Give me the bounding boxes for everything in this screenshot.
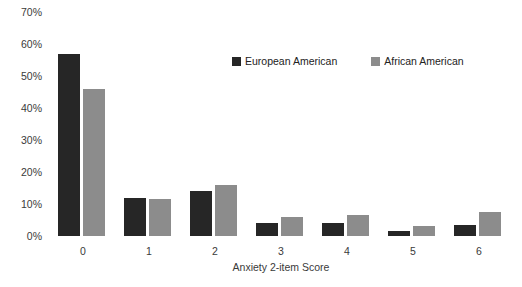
x-axis-tick-label: 5: [383, 246, 443, 257]
plot-area: [50, 12, 512, 236]
x-axis-tick-label: 2: [185, 246, 245, 257]
bar-african-american: [149, 199, 171, 236]
y-axis-tick-label: 60%: [0, 39, 42, 50]
bar-european-american: [190, 191, 212, 236]
bar-european-american: [256, 223, 278, 236]
legend-label: European American: [245, 56, 337, 67]
x-axis-tick-label: 3: [251, 246, 311, 257]
bar-african-american: [479, 212, 501, 236]
x-axis-tick-label: 0: [53, 246, 113, 257]
bar-group: [116, 12, 182, 236]
bar-chart: 0%10%20%30%40%50%60%70% European America…: [0, 0, 522, 287]
y-axis-tick-label: 40%: [0, 103, 42, 114]
legend-entry: African American: [371, 56, 463, 67]
y-axis-tick-label: 30%: [0, 135, 42, 146]
y-axis-tick-label: 10%: [0, 199, 42, 210]
x-axis-tick-label: 1: [119, 246, 179, 257]
bar-african-american: [413, 226, 435, 236]
bar-group: [248, 12, 314, 236]
bar-group: [380, 12, 446, 236]
legend-swatch-icon: [232, 57, 241, 66]
bar-european-american: [454, 225, 476, 236]
x-axis-title: Anxiety 2-item Score: [50, 262, 512, 273]
x-axis-tick-label: 4: [317, 246, 377, 257]
bar-european-american: [58, 54, 80, 236]
bar-european-american: [322, 223, 344, 236]
chart-legend: European AmericanAfrican American: [232, 56, 464, 67]
bar-african-american: [215, 185, 237, 236]
y-axis-tick-label: 70%: [0, 7, 42, 18]
bar-african-american: [281, 217, 303, 236]
y-axis-tick-label: 0%: [0, 231, 42, 242]
bar-group: [446, 12, 512, 236]
y-axis: 0%10%20%30%40%50%60%70%: [0, 0, 50, 287]
bar-african-american: [347, 215, 369, 236]
legend-label: African American: [384, 56, 463, 67]
bar-group: [50, 12, 116, 236]
y-axis-tick-label: 20%: [0, 167, 42, 178]
legend-entry: European American: [232, 56, 337, 67]
bar-group: [314, 12, 380, 236]
x-axis-tick-label: 6: [449, 246, 509, 257]
legend-swatch-icon: [371, 57, 380, 66]
bar-group: [182, 12, 248, 236]
bar-european-american: [124, 198, 146, 236]
bar-african-american: [83, 89, 105, 236]
y-axis-tick-label: 50%: [0, 71, 42, 82]
